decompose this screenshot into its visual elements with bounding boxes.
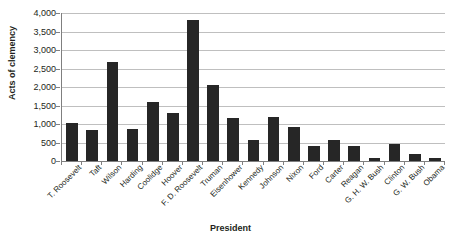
y-tick-mark (56, 143, 60, 144)
bar-slot (62, 13, 82, 161)
y-tick-mark (56, 87, 60, 88)
x-category-label-text: Taft (88, 163, 103, 178)
bar-slot (324, 13, 344, 161)
bar-slot (122, 13, 142, 161)
y-tick-mark (56, 124, 60, 125)
y-tick-mark (56, 161, 60, 162)
y-tick-label: 2,000 (33, 82, 56, 92)
y-axis-tick-labels: 4,0003,5003,0002,5002,0001,5001,0005000 (16, 0, 60, 243)
bar-slot (344, 13, 364, 161)
y-tick-mark (56, 50, 60, 51)
x-axis-category-labels: T. RooseveltTaftWilsonHardingCoolidgeHoo… (61, 163, 444, 223)
y-tick-label: 4,000 (33, 8, 56, 18)
bar (66, 123, 78, 161)
clemency-bar-chart: Acts of clemency 4,0003,5003,0002,5002,0… (0, 0, 461, 243)
y-tick-mark (56, 13, 60, 14)
y-tick-mark (56, 106, 60, 107)
bar (187, 20, 199, 161)
bar-slot (163, 13, 183, 161)
y-tick-label: 3,500 (33, 27, 56, 37)
y-tick-mark (56, 32, 60, 33)
y-tick-label: 1,500 (33, 101, 56, 111)
bar-slot (143, 13, 163, 161)
y-tick-label: 500 (41, 138, 56, 148)
bar-slot (183, 13, 203, 161)
y-tick-label: 2,500 (33, 64, 56, 74)
y-tick-label: 1,000 (33, 119, 56, 129)
bar-slot (304, 13, 324, 161)
bar-slot (364, 13, 384, 161)
y-tick-label: 3,000 (33, 45, 56, 55)
bar (107, 62, 119, 161)
bar-slot (425, 13, 445, 161)
bar-series (62, 13, 445, 161)
x-axis-title: President (0, 223, 461, 233)
bar-slot (284, 13, 304, 161)
y-tick-mark (56, 69, 60, 70)
plot-area (61, 13, 445, 162)
